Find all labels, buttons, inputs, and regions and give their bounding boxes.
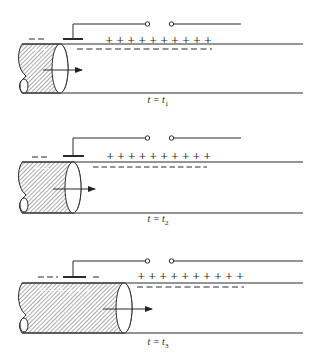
plus-charges-cylinder: ++ (32, 44, 49, 54)
svg-text:++++++: ++++++ (39, 285, 93, 295)
label-subscript: 1 (165, 100, 169, 108)
left-cut-ellipse (20, 79, 28, 93)
label-text: t = t (148, 213, 165, 224)
plus-charges-top: ++++++++++ (105, 34, 215, 45)
time-label-t3: t = t3 (148, 336, 169, 350)
panel-t3: ++++++++++ ++++++ (19, 259, 303, 333)
svg-text:++++++++++: ++++++++++ (106, 150, 214, 161)
label-subscript: 3 (165, 342, 169, 350)
switch-terminal-left (145, 22, 149, 26)
time-label-t1: t = t1 (148, 94, 169, 108)
svg-text:++: ++ (33, 163, 52, 173)
time-label-t2: t = t2 (148, 213, 169, 227)
diagram-canvas: ++++++++++ ++ ++++++++++ ++ ++++++ (0, 0, 318, 360)
label-subscript: 2 (165, 219, 169, 227)
label-text: t = t (148, 336, 165, 347)
switch-terminal-right (169, 22, 173, 26)
wavefront-ellipse (52, 44, 68, 93)
label-text: t = t (148, 94, 165, 105)
panel-t1: ++++++++++ ++ (19, 22, 303, 93)
panel-t2: ++++++++++ ++ (19, 136, 303, 213)
svg-text:++++++++++: ++++++++++ (137, 270, 247, 281)
